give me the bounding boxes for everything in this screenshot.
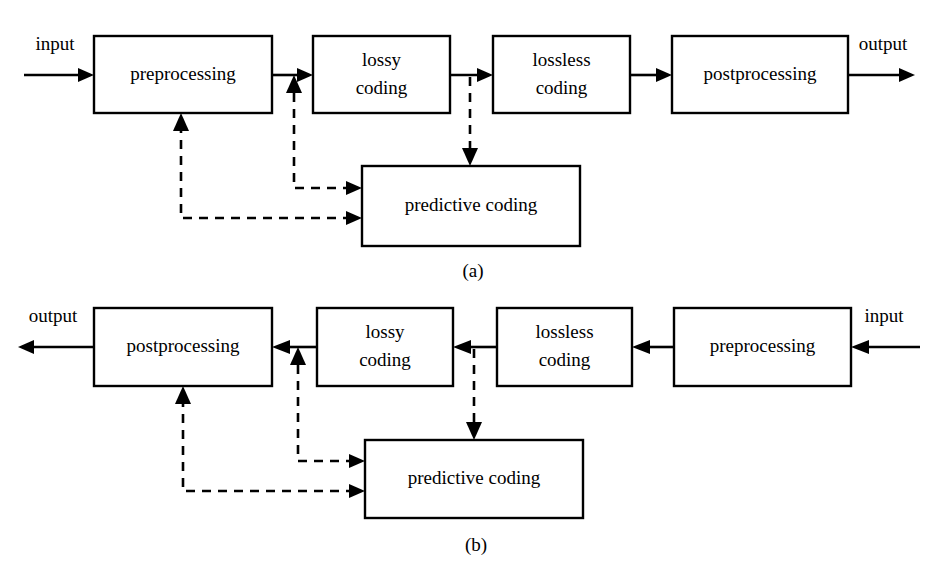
input-label-b: input: [864, 305, 904, 326]
node-lossless-coding-a-label-line2: coding: [536, 77, 588, 98]
node-postprocessing-b-label: postprocessing: [127, 335, 240, 356]
arrowhead-lossy-to-postprocessing-b: [272, 340, 290, 354]
arrowhead-predictive-to-preprocessing-in-a: [346, 211, 362, 225]
node-lossless-coding-b-label-line1: lossless: [535, 321, 593, 342]
arrowhead-lossy-to-lossless-a: [477, 68, 493, 82]
node-preprocessing-a-label: preprocessing: [130, 63, 236, 84]
arrowhead-output-b: [18, 340, 34, 354]
arrowhead-lossless-to-postprocessing-a: [656, 68, 672, 82]
block-diagram-svg: input preprocessing lossy coding lossles…: [0, 0, 938, 575]
panel-caption-a: (a): [462, 260, 483, 282]
output-label-b: output: [29, 305, 78, 326]
node-lossy-coding-a[interactable]: [313, 36, 450, 113]
node-lossless-coding-a-label-line1: lossless: [532, 49, 590, 70]
arrowhead-input-b: [851, 340, 869, 354]
arrowhead-output-a: [899, 68, 915, 82]
panel-b: output postprocessing lossy coding lossl…: [18, 305, 920, 556]
arrowhead-predictive-to-lossy-up-b: [290, 347, 306, 365]
node-lossy-coding-b-label-line2: coding: [359, 349, 411, 370]
edge-predictive-to-preprocessing-a: [181, 130, 352, 218]
node-lossless-coding-b[interactable]: [497, 308, 632, 386]
node-lossy-coding-a-label-line2: coding: [356, 77, 408, 98]
input-label-a: input: [35, 33, 75, 54]
figure-canvas: input preprocessing lossy coding lossles…: [0, 0, 938, 575]
arrowhead-lossless-to-lossy-b: [453, 340, 471, 354]
arrowhead-predictive-to-lossy-in-b: [349, 454, 365, 468]
node-postprocessing-a-label: postprocessing: [704, 63, 817, 84]
arrowhead-predictive-to-preprocessing-up-a: [173, 113, 189, 131]
arrowhead-preprocessing-to-lossless-b: [632, 340, 650, 354]
output-label-a: output: [859, 33, 908, 54]
node-lossless-coding-a[interactable]: [493, 36, 630, 113]
arrowhead-lossy-to-predictive-a: [462, 148, 478, 166]
node-lossless-coding-b-label-line2: coding: [539, 349, 591, 370]
arrowhead-lossless-to-predictive-b: [466, 422, 482, 440]
node-predictive-coding-a-label: predictive coding: [405, 194, 538, 215]
node-predictive-coding-b-label: predictive coding: [408, 467, 541, 488]
arrowhead-predictive-to-postprocessing-up-b: [175, 386, 191, 404]
node-lossy-coding-a-label-line1: lossy: [362, 49, 402, 70]
arrowhead-input-a: [78, 68, 94, 82]
panel-caption-b: (b): [465, 534, 487, 556]
panel-a: input preprocessing lossy coding lossles…: [24, 33, 915, 282]
arrowhead-predictive-to-postprocessing-in-b: [349, 484, 365, 498]
node-preprocessing-b-label: preprocessing: [710, 335, 816, 356]
edge-predictive-to-postprocessing-b: [183, 402, 355, 491]
node-lossy-coding-b[interactable]: [317, 308, 453, 386]
arrowhead-predictive-to-lossy-in-a: [346, 181, 362, 195]
arrowhead-preprocessing-to-lossy-a: [297, 68, 313, 82]
node-lossy-coding-b-label-line1: lossy: [365, 321, 405, 342]
